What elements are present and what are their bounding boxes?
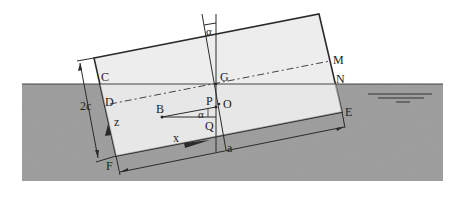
floating-body-diagram: C D F G M N B P O Q E α α z x 2c a — [0, 0, 471, 199]
point-O — [218, 103, 221, 106]
label-C: C — [101, 70, 109, 84]
label-N: N — [336, 72, 345, 86]
point-G — [215, 83, 218, 86]
label-alpha-mid: α — [198, 108, 204, 120]
label-a: a — [227, 141, 233, 155]
label-P: P — [206, 94, 213, 108]
label-x: x — [173, 131, 179, 145]
point-P — [215, 106, 218, 109]
label-z: z — [114, 115, 119, 129]
extension-line-top — [77, 58, 94, 61]
label-M: M — [333, 53, 344, 67]
label-E: E — [345, 105, 352, 119]
arrow-2c-top — [78, 63, 82, 71]
label-O: O — [223, 97, 232, 111]
label-D: D — [105, 95, 114, 109]
label-G: G — [220, 70, 229, 84]
label-Q: Q — [205, 119, 214, 133]
label-2c: 2c — [80, 99, 91, 113]
label-alpha-top: α — [206, 25, 212, 37]
label-B: B — [156, 102, 164, 116]
label-F: F — [106, 159, 113, 173]
